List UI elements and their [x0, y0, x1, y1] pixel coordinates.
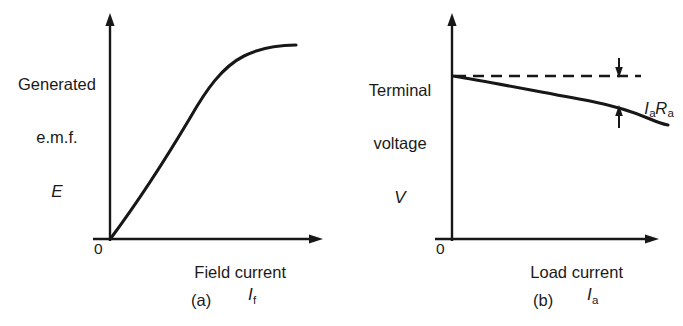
panel-b-x-axis-symbol: Ia [568, 268, 598, 323]
panel-a-y-axis-label-line2: e.m.f. [8, 129, 106, 147]
panel-b-iara-sub-a2: a [668, 107, 674, 119]
panel-a-y-axis-symbol: E [8, 183, 106, 201]
panel-b-origin-label: 0 [436, 241, 445, 258]
panel-b-iara-dimension-arrow [615, 58, 623, 128]
panel-b-y-axis-label-line2: voltage [352, 135, 448, 153]
panel-a-y-axis-label: Generated e.m.f. E [8, 40, 106, 236]
panel-a-y-axis-arrowhead [105, 13, 114, 26]
panel-b-iara-symbol-r: R [655, 99, 667, 117]
panel-a-caption: (a) [191, 292, 211, 310]
panel-a-curve-open-circuit-characteristic [111, 45, 296, 238]
panel-b-y-axis-label-line1: Terminal [352, 82, 448, 100]
panel-b-y-axis-symbol: V [352, 189, 448, 207]
panel-b-x-axis-symbol-main: I [587, 285, 592, 304]
panel-b-y-axis-label: Terminal voltage V [352, 46, 448, 242]
panel-a-x-axis-arrowhead [309, 234, 323, 243]
panel-b-caption: (b) [533, 292, 553, 310]
panel-b-x-axis-symbol-sub: a [592, 294, 598, 306]
panel-a-graph [93, 13, 323, 244]
panel-a-y-axis-label-line1: Generated [8, 76, 106, 94]
panel-b-y-axis-arrowhead [447, 13, 456, 26]
panel-a-x-axis-symbol-main: I [248, 285, 253, 304]
figure-root: Generated e.m.f. E 0 Field current If (a… [0, 0, 683, 326]
panel-b-x-axis-arrowhead [645, 234, 659, 243]
panel-a-origin-label: 0 [94, 241, 103, 258]
panel-a-x-axis-symbol-sub: f [253, 294, 256, 306]
panel-a-x-axis-symbol: If [229, 268, 256, 323]
panel-b-iara-sub-a1: a [649, 107, 655, 119]
panel-b-iara-annotation-label: IaRa [626, 82, 674, 135]
